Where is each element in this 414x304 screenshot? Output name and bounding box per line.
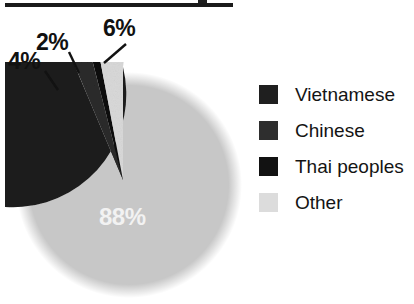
leader-line-other: [104, 44, 126, 63]
legend-item-chinese: Chinese: [259, 112, 411, 148]
legend-label-other: Other: [295, 193, 343, 212]
pie-chart-svg: [5, 62, 245, 302]
legend-label-chinese: Chinese: [295, 121, 365, 140]
legend-item-other: Other: [259, 184, 411, 220]
legend-swatch-other-icon: [259, 193, 278, 212]
pie-chart-plot-area: [5, 62, 245, 302]
chart-legend: Vietnamese Chinese Thai peoples Other: [259, 76, 411, 220]
legend-item-thai-peoples: Thai peoples: [259, 148, 411, 184]
legend-swatch-chinese-icon: [259, 121, 278, 140]
pie-label-thai-peoples-percent: 2%: [36, 31, 68, 54]
legend-swatch-thai-peoples-icon: [259, 157, 278, 176]
pie-label-chinese-percent: 4%: [8, 50, 40, 73]
legend-label-thai-peoples: Thai peoples: [295, 157, 404, 176]
legend-item-vietnamese: Vietnamese: [259, 76, 411, 112]
header-divider-rule: [5, 3, 233, 7]
pie-label-vietnamese-percent: 88%: [99, 205, 146, 229]
pie-label-other-percent: 6%: [103, 17, 135, 40]
legend-swatch-vietnamese-icon: [259, 85, 278, 104]
legend-label-vietnamese: Vietnamese: [295, 85, 395, 104]
cropped-title-fragment-icon: [198, 0, 207, 3]
pie-chart-figure: 6% 2% 4% 88% Vietnamese Chinese Thai peo…: [0, 0, 414, 304]
